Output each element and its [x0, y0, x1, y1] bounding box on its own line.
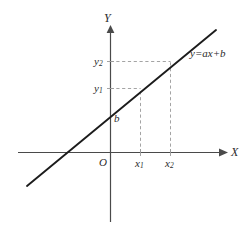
y-intercept-label: b [114, 113, 120, 124]
y-axis-label: Y [104, 12, 111, 24]
x-axis-arrowhead [219, 149, 228, 157]
tick-label-y2: y2 [94, 56, 103, 68]
tick-label-x2: x2 [165, 158, 174, 170]
tick-label-x1: x1 [135, 158, 144, 170]
linear-function-figure: Y X O y2 y1 x1 x2 b y=ax+b [0, 0, 249, 233]
y-axis-arrowhead [107, 25, 115, 33]
origin-label: O [99, 157, 107, 168]
function-line [27, 30, 216, 186]
tick-label-x1-sub: 1 [140, 161, 144, 170]
x-axis-label: X [231, 146, 238, 158]
equation-label: y=ax+b [190, 48, 226, 59]
tick-label-x2-sub: 2 [170, 161, 174, 170]
graph-canvas [0, 0, 249, 233]
function-line-group [27, 30, 216, 186]
tick-label-y1-sub: 1 [99, 86, 103, 95]
tick-label-y2-sub: 2 [99, 59, 103, 68]
tick-label-y1: y1 [94, 83, 103, 95]
